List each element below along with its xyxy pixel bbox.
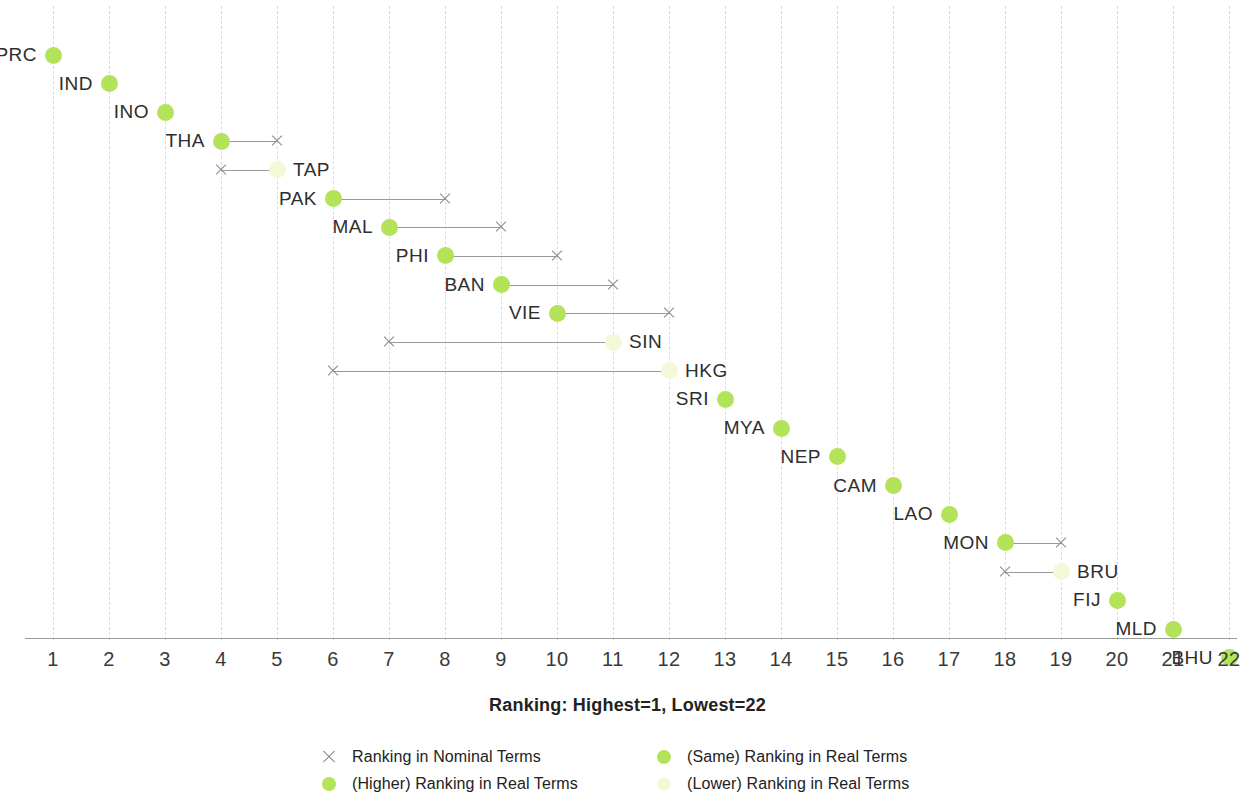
chart-row: SIN bbox=[0, 329, 1255, 355]
real-rank-dot bbox=[661, 362, 678, 379]
nominal-rank-cross-icon bbox=[605, 277, 621, 293]
chart-row: BAN bbox=[0, 272, 1255, 298]
chart-row: BRU bbox=[0, 559, 1255, 585]
legend-item-same: (Same) Ranking in Real Terms bbox=[655, 745, 907, 769]
economy-label: THA bbox=[166, 128, 213, 154]
economy-label: BRU bbox=[1070, 559, 1119, 585]
x-tick-label: 6 bbox=[327, 648, 339, 671]
ranking-dumbbell-chart: PRCINDINOTHATAPPAKMALPHIBANVIESINHKGSRIM… bbox=[0, 0, 1255, 798]
x-tick-label: 18 bbox=[993, 648, 1016, 671]
real-rank-dot bbox=[45, 47, 62, 64]
x-tick-label: 3 bbox=[159, 648, 171, 671]
x-tick-label: 10 bbox=[545, 648, 568, 671]
connector-line bbox=[445, 256, 557, 257]
economy-label: INO bbox=[114, 99, 156, 125]
economy-label: LAO bbox=[893, 501, 940, 527]
connector-line bbox=[333, 199, 445, 200]
nominal-rank-cross-icon bbox=[493, 219, 509, 235]
chart-row: SRI bbox=[0, 386, 1255, 412]
real-rank-dot bbox=[997, 534, 1014, 551]
chart-row: NEP bbox=[0, 444, 1255, 470]
real-rank-dot bbox=[717, 391, 734, 408]
connector-line bbox=[501, 285, 613, 286]
chart-row: MON bbox=[0, 530, 1255, 556]
real-rank-dot bbox=[269, 161, 286, 178]
real-rank-dot bbox=[885, 477, 902, 494]
economy-label: BAN bbox=[444, 272, 492, 298]
nominal-rank-cross-icon bbox=[381, 334, 397, 350]
real-rank-dot bbox=[101, 75, 118, 92]
plot-area: PRCINDINOTHATAPPAKMALPHIBANVIESINHKGSRIM… bbox=[0, 0, 1255, 640]
real-rank-dot bbox=[325, 190, 342, 207]
economy-label: PAK bbox=[279, 186, 324, 212]
x-tick-label: 17 bbox=[937, 648, 960, 671]
green-dot-marker-icon bbox=[657, 750, 671, 764]
real-rank-dot bbox=[605, 334, 622, 351]
real-rank-dot bbox=[213, 133, 230, 150]
legend-item-higher: (Higher) Ranking in Real Terms bbox=[320, 772, 578, 796]
x-tick-label: 14 bbox=[769, 648, 792, 671]
legend-label: (Lower) Ranking in Real Terms bbox=[687, 775, 909, 793]
connector-line bbox=[389, 227, 501, 228]
nominal-rank-cross-icon bbox=[549, 248, 565, 264]
chart-row: IND bbox=[0, 71, 1255, 97]
chart-row: VIE bbox=[0, 300, 1255, 326]
real-rank-dot bbox=[381, 219, 398, 236]
connector-line bbox=[557, 313, 669, 314]
nominal-rank-cross-icon bbox=[269, 133, 285, 149]
pale-dot-marker-icon bbox=[657, 777, 671, 791]
nominal-rank-cross-icon bbox=[661, 305, 677, 321]
legend-label: (Same) Ranking in Real Terms bbox=[687, 748, 907, 766]
real-rank-dot bbox=[437, 247, 454, 264]
chart-legend: Ranking in Nominal Terms (Higher) Rankin… bbox=[300, 745, 1000, 797]
real-rank-dot bbox=[1109, 592, 1126, 609]
nominal-rank-cross-icon bbox=[1053, 535, 1069, 551]
chart-row: INO bbox=[0, 99, 1255, 125]
chart-row: FIJ bbox=[0, 587, 1255, 613]
economy-label: MYA bbox=[724, 415, 772, 441]
economy-label: PRC bbox=[0, 42, 44, 68]
x-tick-label: 20 bbox=[1105, 648, 1128, 671]
real-rank-dot bbox=[493, 276, 510, 293]
chart-row: PAK bbox=[0, 186, 1255, 212]
economy-label: NEP bbox=[780, 444, 828, 470]
real-rank-dot bbox=[1053, 563, 1070, 580]
x-tick-label: 11 bbox=[602, 648, 624, 671]
chart-row: THA bbox=[0, 128, 1255, 154]
x-tick-label: 2 bbox=[103, 648, 115, 671]
economy-label: SRI bbox=[676, 386, 716, 412]
economy-label: MON bbox=[943, 530, 996, 556]
x-tick-label: 12 bbox=[657, 648, 680, 671]
economy-label: SIN bbox=[622, 329, 662, 355]
x-tick-label: 1 bbox=[47, 648, 59, 671]
economy-label: TAP bbox=[286, 157, 330, 183]
x-tick-label: 7 bbox=[383, 648, 395, 671]
economy-label: PHI bbox=[396, 243, 436, 269]
chart-row: TAP bbox=[0, 157, 1255, 183]
economy-label: MAL bbox=[332, 214, 380, 240]
x-tick-label: 13 bbox=[713, 648, 736, 671]
green-dot-marker-icon bbox=[322, 777, 336, 791]
x-tick-label: 8 bbox=[439, 648, 451, 671]
economy-label: FIJ bbox=[1073, 587, 1108, 613]
chart-row: MAL bbox=[0, 214, 1255, 240]
real-rank-dot bbox=[549, 305, 566, 322]
x-tick-label: 5 bbox=[271, 648, 283, 671]
x-tick-label: 4 bbox=[215, 648, 227, 671]
legend-item-lower: (Lower) Ranking in Real Terms bbox=[655, 772, 909, 796]
legend-label: Ranking in Nominal Terms bbox=[352, 748, 541, 766]
cross-marker-icon bbox=[320, 748, 338, 766]
real-rank-dot bbox=[773, 420, 790, 437]
economy-label: VIE bbox=[509, 300, 548, 326]
x-tick-label: 19 bbox=[1049, 648, 1072, 671]
x-axis-title: Ranking: Highest=1, Lowest=22 bbox=[0, 695, 1255, 716]
x-tick-label: 22 bbox=[1217, 648, 1240, 671]
economy-label: CAM bbox=[833, 473, 884, 499]
x-axis-tick-labels: 12345678910111213141516171819202122 bbox=[0, 648, 1255, 678]
connector-line bbox=[389, 342, 613, 343]
nominal-rank-cross-icon bbox=[325, 363, 341, 379]
economy-label: IND bbox=[59, 71, 100, 97]
chart-row: LAO bbox=[0, 501, 1255, 527]
chart-row: PRC bbox=[0, 42, 1255, 68]
x-tick-label: 21 bbox=[1161, 648, 1184, 671]
